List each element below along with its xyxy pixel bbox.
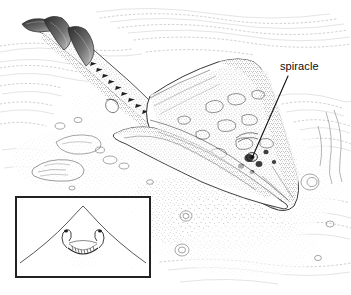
figure-root: spiracle — [0, 0, 351, 295]
inset-ventral-snout — [16, 197, 150, 277]
skate-illustration — [0, 0, 351, 295]
spiracle-label: spiracle — [280, 61, 319, 72]
